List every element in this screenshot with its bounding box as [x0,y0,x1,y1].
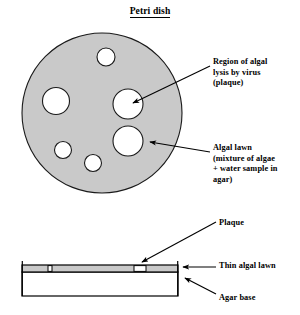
label-line: Algal lawn [213,143,300,154]
label-line: (mixture of algae [213,154,300,165]
label-line: (plaque) [213,78,300,89]
plaque-left [43,88,70,115]
thin-algal-lawn-strip [22,265,178,272]
label-plaque: Plaque [219,218,299,229]
plaque-lower-left [55,142,72,159]
petri-dish-side-view [22,261,178,296]
petri-dish-top-view [22,33,182,193]
figure-canvas: Petri dish [0,0,300,315]
label-line: lysis by virus [213,68,300,79]
plaque-bottom [85,155,102,172]
leader-agar-base [185,278,216,294]
label-thin-algal-lawn: Thin algal lawn [219,261,300,272]
plaque-top [97,48,115,66]
label-agar-base: Agar base [219,293,299,304]
label-line: + water sample in [213,164,300,175]
plaque-lower-right [113,126,143,156]
agar-base-block [22,272,178,296]
plaque-gap-large [134,266,146,272]
label-algal-lawn: Algal lawn (mixture of algae + water sam… [213,143,300,185]
plaque-gap-small [48,266,52,272]
label-line: Region of algal [213,57,300,68]
label-region-of-lysis: Region of algal lysis by virus (plaque) [213,57,300,89]
plaque-center-right [113,89,143,119]
label-line: agar) [213,175,300,186]
leader-plaque [142,222,216,262]
